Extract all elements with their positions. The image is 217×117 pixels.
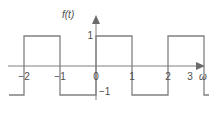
y-axis-arrow-icon [92,15,100,24]
square-wave-figure: f(t) 1 −1 −2 −1 0 1 2 3 ω [0,0,217,117]
y-label-high: 1 [85,31,93,41]
x-tick-minus-2: −2 [10,72,38,82]
waveform-svg [0,0,217,117]
x-tick-1: 1 [118,72,146,82]
function-label: f(t) [62,10,74,20]
x-axis-label: ω [199,72,207,82]
y-label-low: −1 [99,87,110,97]
x-tick-minus-1: −1 [46,72,74,82]
x-tick-0: 0 [82,72,110,82]
